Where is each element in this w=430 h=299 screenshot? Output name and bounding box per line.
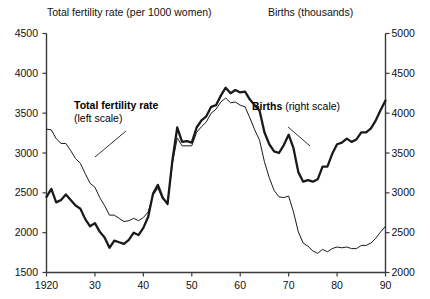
- x-axis-tick-label: 70: [269, 280, 309, 291]
- axis-layer: [43, 34, 390, 277]
- right-axis-tick-label: 3500: [392, 148, 430, 159]
- right-axis-tick-label: 4000: [392, 108, 430, 119]
- right-axis-tick-label: 4500: [392, 68, 430, 79]
- right-axis-tick-label: 3000: [392, 187, 430, 198]
- x-axis-tick-label: 90: [366, 280, 406, 291]
- series-layer: [47, 88, 386, 254]
- left-axis-tick-label: 1500: [4, 267, 38, 278]
- plot-area: [0, 0, 430, 299]
- series-line-total-fertility-rate: [47, 98, 386, 253]
- series-line-births: [47, 88, 386, 248]
- x-axis-tick-label: 50: [172, 280, 212, 291]
- chart-container: Total fertility rate (per 1000 women) Bi…: [0, 0, 430, 299]
- fertility-leader-line: [95, 131, 126, 157]
- left-axis-tick-label: 2000: [4, 227, 38, 238]
- right-axis-tick-label: 5000: [392, 28, 430, 39]
- right-axis-tick-label: 2000: [392, 267, 430, 278]
- x-axis-tick-label: 40: [123, 280, 163, 291]
- x-axis-tick-label: 80: [317, 280, 357, 291]
- left-axis-tick-label: 3000: [4, 148, 38, 159]
- left-axis-tick-label: 3500: [4, 108, 38, 119]
- x-axis-tick-label: 30: [75, 280, 115, 291]
- left-axis-tick-label: 4500: [4, 28, 38, 39]
- right-axis-tick-label: 2500: [392, 227, 430, 238]
- left-axis-tick-label: 4000: [4, 68, 38, 79]
- left-axis-tick-label: 2500: [4, 187, 38, 198]
- x-axis-tick-label: 60: [220, 280, 260, 291]
- x-axis-tick-label: 1920: [27, 280, 67, 291]
